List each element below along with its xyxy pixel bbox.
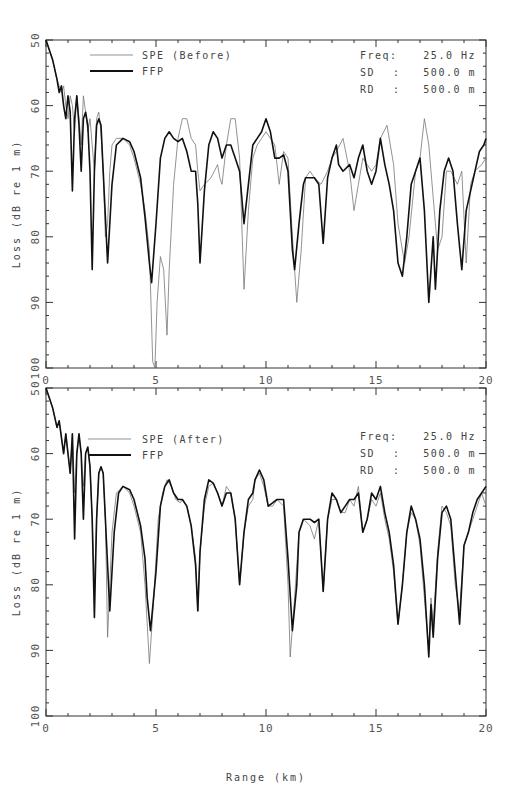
x-tick-label: 5 [152,374,160,387]
y-axis-labels: 5060708090100 [29,380,42,727]
ffp-line [46,40,486,302]
sd-label: SD [360,67,375,78]
y-axis-ticks [46,40,486,368]
x-axis-ticks [46,40,486,368]
y-axis-title: Loss (dB re 1 m) [11,488,22,616]
chart-after: 05101520 5060708090100 Loss (dB re 1 m) … [11,380,494,783]
chart-before: 05101520 5060708090100 Loss (dB re 1 m) … [11,32,494,387]
freq-value: 25.0 Hz [423,431,476,442]
rd-label: RD [360,84,375,95]
y-tick-label: 70 [29,164,42,179]
legend-spe-label: SPE (Before) [142,50,232,61]
y-tick-label: 60 [29,446,42,461]
y-tick-label: 80 [29,229,42,244]
legend: SPE (Before) FFP [90,50,232,77]
rd-label: RD [360,465,375,476]
x-tick-label: 10 [258,374,273,387]
x-axis-labels: 05101520 [42,722,493,735]
x-axis-labels: 05101520 [42,374,493,387]
legend: SPE (After) FFP [88,434,225,461]
y-tick-label: 100 [29,357,42,380]
x-tick-label: 15 [368,722,383,735]
y-tick-label: 70 [29,512,42,527]
y-tick-label: 90 [29,295,42,310]
info-panel: Freq: 25.0 Hz SD : 500.0 m RD : 500.0 m [360,431,476,476]
freq-label: Freq: [360,50,398,61]
rd-sep: : [393,465,401,476]
y-tick-label: 50 [29,380,42,395]
x-tick-label: 0 [42,722,50,735]
plot-frame [46,40,486,368]
rd-value: 500.0 m [423,84,476,95]
sd-sep: : [393,67,401,78]
y-tick-label: 60 [29,98,42,113]
x-tick-label: 5 [152,722,160,735]
x-axis-ticks [46,388,486,716]
rd-value: 500.0 m [423,465,476,476]
spe-line [46,388,486,664]
y-axis-labels: 5060708090100 [29,32,42,379]
legend-ffp-label: FFP [142,450,165,461]
x-tick-label: 15 [368,374,383,387]
sd-value: 500.0 m [423,448,476,459]
plot-frame [46,388,486,716]
x-axis-title: Range (km) [226,772,306,783]
freq-label: Freq: [360,431,398,442]
legend-spe-label: SPE (After) [142,434,225,445]
y-tick-label: 100 [29,705,42,728]
x-tick-label: 20 [478,722,493,735]
spe-line [46,40,486,368]
sd-value: 500.0 m [423,67,476,78]
ffp-line [46,388,486,657]
y-tick-label: 50 [29,32,42,47]
y-tick-label: 90 [29,643,42,658]
sd-label: SD [360,448,375,459]
legend-ffp-label: FFP [142,66,165,77]
x-tick-label: 0 [42,374,50,387]
y-axis-ticks [46,388,486,716]
y-tick-label: 80 [29,577,42,592]
figure: 05101520 5060708090100 Loss (dB re 1 m) … [0,0,516,792]
freq-value: 25.0 Hz [423,50,476,61]
sd-sep: : [393,448,401,459]
rd-sep: : [393,84,401,95]
x-tick-label: 10 [258,722,273,735]
y-axis-title: Loss (dB re 1 m) [11,140,22,268]
x-tick-label: 20 [478,374,493,387]
info-panel: Freq: 25.0 Hz SD : 500.0 m RD : 500.0 m [360,50,476,95]
